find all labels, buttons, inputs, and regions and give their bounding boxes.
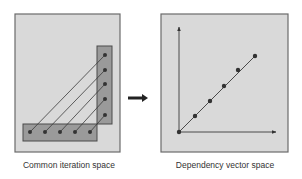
iteration-point: [58, 130, 62, 134]
transform-arrow-icon: [128, 94, 148, 102]
dependency-diagram: [0, 0, 302, 179]
dependency-vector-point: [236, 68, 240, 72]
dependency-vector-point: [253, 54, 257, 58]
left-caption: Common iteration space: [15, 160, 123, 170]
iteration-point: [28, 130, 32, 134]
dependency-vector-point: [222, 84, 226, 88]
common-iteration-space-panel: [15, 14, 120, 152]
iteration-point: [103, 53, 107, 57]
dependency-vector-space-panel: [161, 14, 288, 152]
iteration-point: [103, 113, 107, 117]
right-caption: Dependency vector space: [158, 160, 292, 170]
iteration-point: [103, 68, 107, 72]
dependency-vector-point: [208, 99, 212, 103]
iteration-point: [73, 130, 77, 134]
dependency-vector-point: [177, 130, 181, 134]
iteration-point: [43, 130, 47, 134]
iteration-point: [103, 82, 107, 86]
dependency-vector-point: [193, 114, 197, 118]
iteration-point: [103, 97, 107, 101]
iteration-point: [88, 130, 92, 134]
